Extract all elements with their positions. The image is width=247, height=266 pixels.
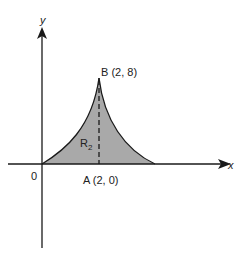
point-b-label: B (2, 8) [101, 66, 137, 78]
origin-label: 0 [31, 170, 37, 182]
x-axis-label: x [227, 159, 234, 171]
region-label-main: R [80, 137, 88, 149]
point-a-label: A (2, 0) [83, 174, 118, 186]
diagram-canvas: y x 0 A (2, 0) B (2, 8) R2 [0, 0, 247, 266]
region-label-subscript: 2 [88, 143, 93, 152]
y-axis-label: y [39, 14, 47, 26]
